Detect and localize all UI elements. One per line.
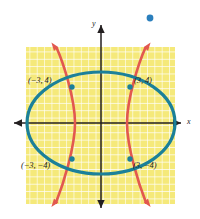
intersection-point <box>127 156 132 161</box>
point-label-3-4: (3, 4) <box>134 76 152 85</box>
intersection-point <box>127 84 132 89</box>
y-axis-label: y <box>92 20 96 28</box>
point-label-neg3-4: (−3, 4) <box>28 76 51 85</box>
point-label-neg3-neg4: (−3, −4) <box>21 161 50 170</box>
point-label-3-neg4: (3, −4) <box>133 161 156 170</box>
x-axis-label: x <box>187 118 191 126</box>
graph-canvas <box>0 0 200 219</box>
blue-dot <box>147 15 154 22</box>
conic-system-figure: y x (−3, 4) (3, 4) (−3, −4) (3, −4) <box>0 0 200 219</box>
intersection-point <box>69 156 74 161</box>
intersection-point <box>69 84 74 89</box>
